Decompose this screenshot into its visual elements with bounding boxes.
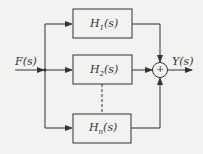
input-label: F(s) <box>15 56 37 67</box>
block-h1-label: H1(s) <box>90 18 118 32</box>
block-h2-label: H2(s) <box>90 64 118 78</box>
summer-plus: + <box>156 64 164 74</box>
branch-point <box>44 69 47 72</box>
output-label: Y(s) <box>172 56 194 67</box>
block-hn-label: Hn(s) <box>89 122 117 136</box>
